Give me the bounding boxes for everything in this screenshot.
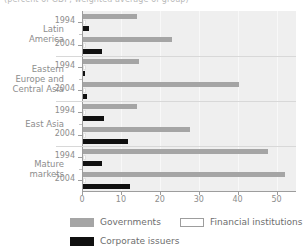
- y-tick-mark: [78, 45, 82, 46]
- y-axis-year-label: 1994: [47, 106, 75, 115]
- bar-corporate-issuers: [83, 71, 85, 76]
- bar-financial-institutions: [83, 43, 86, 48]
- legend-item[interactable]: Corporate issuers: [70, 236, 179, 246]
- bar-corporate-issuers: [83, 161, 102, 166]
- x-tick-label: 20: [155, 195, 165, 204]
- legend-item[interactable]: Governments: [70, 217, 161, 227]
- y-minor-tick: [79, 124, 82, 125]
- y-axis-year-label: 2004: [47, 129, 75, 138]
- bar-governments: [83, 37, 172, 42]
- y-tick-mark: [78, 180, 82, 181]
- legend-swatch-gov-icon: [70, 218, 94, 227]
- bar-governments: [83, 172, 285, 177]
- y-minor-tick: [79, 79, 82, 80]
- legend-swatch-fin-icon: [180, 218, 204, 227]
- bar-financial-institutions: [83, 65, 86, 70]
- bar-governments: [83, 127, 190, 132]
- bar-financial-institutions: [83, 178, 86, 183]
- bar-financial-institutions: [83, 155, 86, 160]
- group-separator: [56, 56, 296, 57]
- y-tick-mark: [78, 135, 82, 136]
- y-tick-mark: [78, 22, 82, 23]
- bar-chart: (percent of GDP; weighted average of gro…: [0, 0, 307, 252]
- chart-title-text: (percent of GDP; weighted average of gro…: [4, 0, 307, 4]
- bar-corporate-issuers: [83, 139, 128, 144]
- group-separator: [56, 101, 296, 102]
- bar-corporate-issuers: [83, 26, 89, 31]
- bar-corporate-issuers: [83, 94, 87, 99]
- bar-governments: [83, 14, 137, 19]
- x-tick-label: 10: [116, 195, 126, 204]
- chart-title-clipped: (percent of GDP; weighted average of gro…: [0, 0, 307, 9]
- group-separator: [56, 146, 296, 147]
- bar-governments: [83, 149, 268, 154]
- y-minor-tick: [79, 34, 82, 35]
- bar-corporate-issuers: [83, 184, 130, 189]
- bar-financial-institutions: [83, 133, 86, 138]
- bar-governments: [83, 104, 137, 109]
- x-tick-label: 0: [79, 195, 84, 204]
- bar-financial-institutions: [83, 88, 86, 93]
- chart-legend: GovernmentsFinancial institutionsCorpora…: [0, 215, 307, 252]
- y-axis-category-label: Mature markets: [0, 159, 64, 179]
- legend-label: Governments: [100, 217, 161, 227]
- y-axis-category-label: Latin America: [0, 24, 64, 44]
- x-tick-label: 30: [194, 195, 204, 204]
- bar-corporate-issuers: [83, 116, 104, 121]
- y-axis-category-label: East Asia: [0, 119, 64, 129]
- legend-label: Financial institutions: [210, 217, 302, 227]
- bar-financial-institutions: [83, 20, 86, 25]
- x-tick-label: 50: [271, 195, 281, 204]
- legend-label: Corporate issuers: [100, 236, 179, 246]
- x-axis-line: [82, 191, 296, 192]
- y-tick-mark: [78, 67, 82, 68]
- bar-governments: [83, 82, 239, 87]
- y-tick-mark: [78, 157, 82, 158]
- bar-corporate-issuers: [83, 49, 102, 54]
- y-axis-category-label: Eastern Europe and Central Asia: [0, 64, 64, 94]
- x-tick-label: 40: [233, 195, 243, 204]
- bar-governments: [83, 59, 139, 64]
- bar-financial-institutions: [83, 110, 86, 115]
- legend-swatch-corp-icon: [70, 237, 94, 246]
- y-tick-mark: [78, 112, 82, 113]
- y-tick-mark: [78, 90, 82, 91]
- legend-item[interactable]: Financial institutions: [180, 217, 302, 227]
- y-minor-tick: [79, 169, 82, 170]
